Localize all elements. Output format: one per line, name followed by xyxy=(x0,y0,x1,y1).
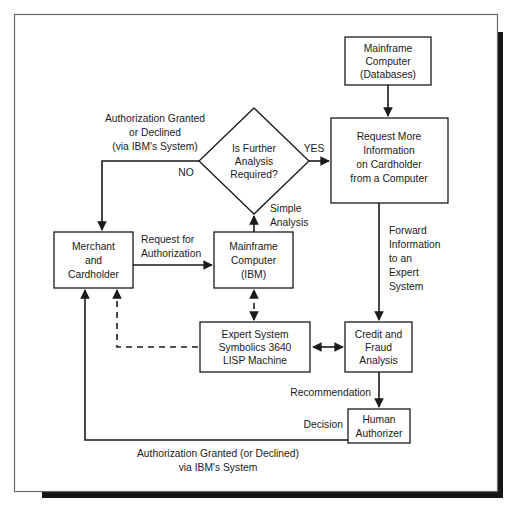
label-request-for-authorization-line-2: Authorization xyxy=(141,248,201,259)
node-request-more-info-line-4: from a Computer xyxy=(350,173,428,184)
label-authorization-granted-via-ibm-line-1: Authorization Granted (or Declined) xyxy=(137,448,299,459)
node-is-further-analysis-line-3: Required? xyxy=(230,169,278,180)
node-human-authorizer[interactable]: Human Authorizer xyxy=(348,409,410,443)
label-forward-information-line-3: to an xyxy=(389,253,412,264)
label-simple-analysis-line-2: Analysis xyxy=(270,217,308,228)
label-authorization-granted-via-ibm-line-2: via IBM's System xyxy=(179,462,258,473)
label-no: NO xyxy=(178,167,193,178)
node-mainframe-databases-line-2: Computer xyxy=(365,56,411,67)
node-request-more-info-line-3: on Cardholder xyxy=(356,159,422,170)
flowchart-page: Mainframe Computer (Databases) Request M… xyxy=(0,0,516,513)
node-merchant-cardholder[interactable]: Merchant and Cardholder xyxy=(54,232,133,288)
node-is-further-analysis-line-1: Is Further xyxy=(232,143,277,154)
label-yes: YES xyxy=(304,143,325,154)
label-decision: Decision xyxy=(304,419,344,430)
node-is-further-analysis-line-2: Analysis xyxy=(235,156,273,167)
node-expert-system-line-2: Symbolics 3640 xyxy=(219,342,292,353)
node-human-authorizer-line-1: Human xyxy=(362,414,395,425)
node-expert-system-line-1: Expert System xyxy=(222,329,289,340)
label-authorization-granted-declined-line-3: (via IBM's System) xyxy=(112,141,198,152)
flowchart-canvas: Mainframe Computer (Databases) Request M… xyxy=(0,0,516,513)
node-expert-system-line-3: LISP Machine xyxy=(223,355,287,366)
node-credit-fraud-analysis-line-2: Fraud xyxy=(365,342,392,353)
label-request-for-authorization-line-1: Request for xyxy=(141,234,195,245)
label-simple-analysis-line-1: Simple xyxy=(270,203,302,214)
node-merchant-cardholder-line-2: and xyxy=(85,255,102,266)
label-forward-information-line-4: Expert xyxy=(389,267,419,278)
node-credit-fraud-analysis[interactable]: Credit and Fraud Analysis xyxy=(345,322,412,372)
node-mainframe-databases-line-1: Mainframe xyxy=(364,43,413,54)
label-authorization-granted-declined-line-2: or Declined xyxy=(129,127,181,138)
node-mainframe-databases-line-3: (Databases) xyxy=(360,69,416,80)
node-credit-fraud-analysis-line-3: Analysis xyxy=(359,355,397,366)
node-merchant-cardholder-line-3: Cardholder xyxy=(68,269,120,280)
node-expert-system[interactable]: Expert System Symbolics 3640 LISP Machin… xyxy=(200,322,310,372)
label-authorization-granted-declined-line-1: Authorization Granted xyxy=(105,113,205,124)
node-mainframe-ibm-line-2: Computer xyxy=(231,255,277,266)
node-request-more-info-line-1: Request More xyxy=(357,131,422,142)
node-credit-fraud-analysis-line-1: Credit and xyxy=(355,329,403,340)
label-recommendation: Recommendation xyxy=(290,387,371,398)
node-merchant-cardholder-line-1: Merchant xyxy=(72,241,115,252)
node-mainframe-ibm-line-3: (IBM) xyxy=(241,269,266,280)
node-human-authorizer-line-2: Authorizer xyxy=(356,428,404,439)
node-mainframe-ibm-line-1: Mainframe xyxy=(229,241,278,252)
node-mainframe-databases[interactable]: Mainframe Computer (Databases) xyxy=(345,37,431,85)
label-forward-information-line-1: Forward xyxy=(389,225,427,236)
label-forward-information-line-5: System xyxy=(389,281,423,292)
node-request-more-info-line-2: Information xyxy=(363,145,415,156)
label-forward-information-line-2: Information xyxy=(389,239,441,250)
node-mainframe-ibm[interactable]: Mainframe Computer (IBM) xyxy=(214,232,293,288)
node-request-more-info[interactable]: Request More Information on Cardholder f… xyxy=(331,118,448,203)
